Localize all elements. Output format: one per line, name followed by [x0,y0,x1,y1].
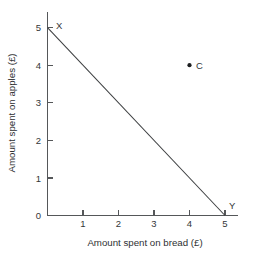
x-tick-labels: 1 2 3 4 5 [80,218,227,229]
y-tick-marks [48,28,54,178]
x-tick-label-2: 2 [116,218,121,229]
label-y: Y [229,200,236,211]
x-tick-label-4: 4 [187,218,192,229]
y-tick-label-5: 5 [36,22,41,33]
y-tick-label-0: 0 [36,210,41,221]
axes-group [48,12,239,216]
y-tick-label-1: 1 [36,173,41,184]
label-c: C [196,60,203,71]
y-tick-label-4: 4 [36,60,41,71]
x-tick-label-5: 5 [222,218,227,229]
y-tick-label-2: 2 [36,135,41,146]
x-tick-label-1: 1 [80,218,85,229]
label-x: X [56,20,63,31]
budget-constraint-line [48,28,226,216]
data-point-c [187,63,191,67]
x-axis-title: Amount spent on bread (£) [87,237,202,248]
x-tick-marks [83,210,225,216]
y-tick-labels: 0 1 2 3 4 5 [36,22,41,221]
y-axis-title: Amount spent on apples (£) [6,53,17,172]
x-tick-label-3: 3 [151,218,156,229]
chart-figure: 1 2 3 4 5 0 1 2 3 4 5 X Y C Amount spent… [0,0,257,257]
y-tick-label-3: 3 [36,97,41,108]
budget-constraint-chart: 1 2 3 4 5 0 1 2 3 4 5 X Y C Amount spent… [0,0,257,257]
